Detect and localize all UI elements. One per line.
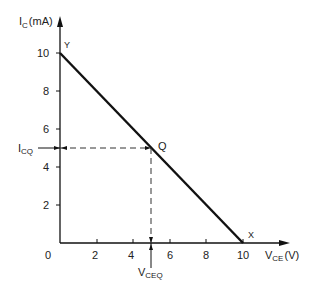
x-tick-label: 10 [237, 249, 249, 261]
vceq-arrow-icon [149, 244, 153, 250]
x-tick-label: 2 [92, 249, 98, 261]
y-axis-arrow-icon [57, 16, 63, 27]
x-tick-label: 8 [203, 249, 209, 261]
y-tick-label: 4 [43, 161, 49, 173]
x-intercept-label: X [248, 230, 254, 240]
y-tick-label: 6 [43, 123, 49, 135]
load-line-diagram: 2 4 6 8 10 2 4 6 8 10 0 IC(mA) VCE(V) Y … [0, 0, 312, 291]
y-tick-label: 8 [43, 85, 49, 97]
origin-label: 0 [45, 249, 51, 261]
x-tick-label: 4 [128, 249, 134, 261]
y-tick-label: 10 [37, 47, 49, 59]
y-intercept-label: Y [64, 40, 70, 50]
q-point-label: Q [158, 140, 167, 152]
icq-label: ICQ [18, 142, 33, 156]
vceq-arrow-icon [149, 237, 153, 243]
x-axis-title: VCE(V) [265, 249, 299, 263]
x-axis-arrow-icon [279, 240, 290, 246]
icq-arrow-icon [54, 146, 60, 150]
y-tick-label: 2 [43, 199, 49, 211]
y-axis-title: IC(mA) [19, 15, 53, 30]
x-tick-label: 6 [167, 249, 173, 261]
vceq-label: VCEQ [138, 266, 163, 280]
icq-arrow-icon [61, 146, 67, 150]
